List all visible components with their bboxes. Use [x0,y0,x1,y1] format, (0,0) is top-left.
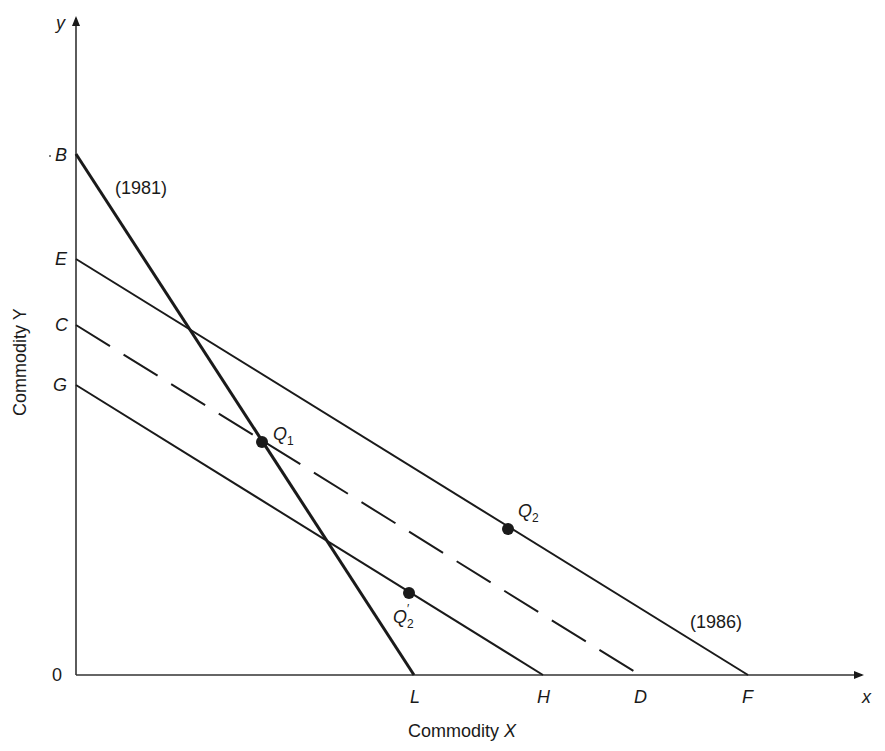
y-axis-title: Commodity Y [10,308,31,416]
budget-line-CD-dashed [76,325,640,675]
label-Q2-prime: Q′2 [393,608,414,630]
point-Q1 [256,436,268,448]
label-E: E [55,250,67,268]
origin-label: 0 [52,666,62,684]
label-Q2: Q2 [518,502,539,524]
diagram-canvas [0,0,885,751]
budget-line-GH [76,385,543,675]
label-L: L [410,688,420,706]
x-axis-symbol: x [862,688,871,706]
x-axis-title: Commodity X [408,722,516,740]
point-Q2 [502,523,514,535]
label-C: C [55,316,68,334]
point-Q2-prime [403,587,415,599]
budget-line-1981-BL [76,154,414,675]
label-B: B [55,146,67,164]
label-G: G [53,376,67,394]
stray-dot [49,155,51,157]
label-F: F [742,688,753,706]
label-1986: (1986) [690,613,742,631]
label-Q1: Q1 [273,425,294,447]
label-1981: (1981) [115,179,167,197]
label-D: D [634,688,647,706]
label-H: H [537,688,550,706]
y-axis-symbol: y [56,14,65,32]
